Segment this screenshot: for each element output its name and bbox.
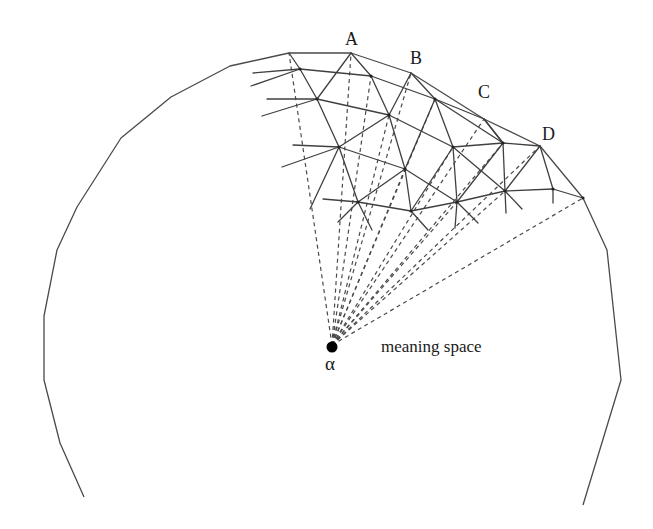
label-a: A	[345, 29, 358, 49]
origin-point	[327, 342, 338, 353]
meaning-space-boundary	[44, 53, 621, 505]
label-d: D	[542, 124, 555, 144]
meaning-space-diagram: A B C D α meaning space	[0, 0, 653, 529]
label-b: B	[410, 48, 422, 68]
projection-rays	[289, 53, 583, 345]
label-alpha: α	[325, 353, 335, 374]
label-c: C	[478, 82, 490, 102]
lattice-mesh	[251, 53, 583, 230]
label-meaning-space: meaning space	[381, 337, 482, 356]
